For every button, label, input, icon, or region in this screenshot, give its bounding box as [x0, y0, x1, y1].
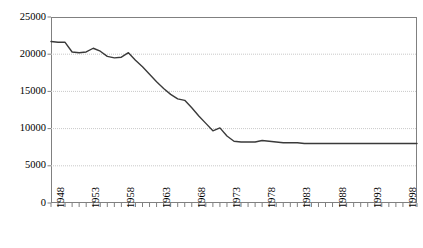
- x-axis-label: 1983: [301, 187, 312, 208]
- x-axis-label: 1988: [337, 187, 348, 208]
- line-chart: 0500010000150002000025000 19481953195819…: [0, 0, 423, 248]
- x-axis-label: 1953: [90, 187, 101, 208]
- x-axis-label: 1993: [372, 187, 383, 208]
- x-axis-tick-labels: 1948195319581963196819731978198319881993…: [0, 0, 423, 248]
- x-axis-label: 1958: [125, 187, 136, 208]
- x-axis-label: 1948: [55, 187, 66, 208]
- x-axis-label: 1963: [161, 187, 172, 208]
- x-axis-label: 1978: [266, 187, 277, 208]
- x-axis-label: 1998: [407, 187, 418, 208]
- x-axis-label: 1968: [196, 187, 207, 208]
- x-axis-label: 1973: [231, 187, 242, 208]
